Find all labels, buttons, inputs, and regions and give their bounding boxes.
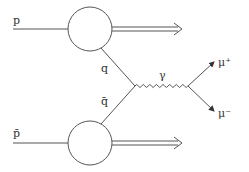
label-antiquark: q̄ [101,95,108,108]
label-antiproton: p̄ [13,127,20,140]
label-photon: γ [159,69,166,82]
muon-minus-line [188,86,214,111]
photon-line [135,85,188,88]
muon-plus-line [188,62,214,86]
feynman-diagram: p p̄ q q̄ γ μ⁺ μ⁻ [0,0,249,172]
label-quark: q [101,62,108,75]
antiproton-remnant-arrow [112,137,182,149]
label-proton: p [13,14,20,27]
antiproton-blob [68,121,112,165]
label-muon-plus: μ⁺ [218,56,231,69]
proton-remnant-arrow [112,23,182,35]
label-muon-minus: μ⁻ [218,107,231,120]
proton-blob [68,7,112,51]
